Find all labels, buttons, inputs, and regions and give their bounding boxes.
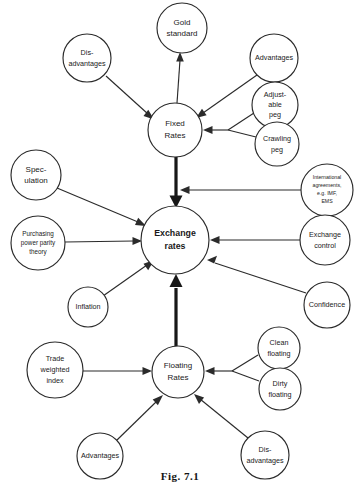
node-label-disadvantages-floating-line1: Dis-: [259, 445, 272, 454]
node-label-fixed-rates-line1: Fixed: [165, 119, 185, 128]
node-label-crawling-peg-line1: Crawling: [263, 134, 291, 143]
edge-advantages-to-floating: [117, 395, 163, 440]
node-label-trade-index-line3: index: [46, 376, 64, 385]
node-label-exchange-rates-line2: rates: [164, 241, 185, 251]
node-dirty-floating[interactable]: Dirty floating: [259, 368, 301, 410]
node-label-trade-index-line1: Trade: [46, 354, 65, 363]
node-label-speculation-line2: ulation: [24, 176, 48, 185]
edge-international-to-trunk: [180, 186, 301, 194]
node-international-agreements[interactable]: International agreements, e.g. IMF, EMS: [301, 164, 353, 216]
node-crawling-peg[interactable]: Crawling peg: [255, 122, 299, 166]
node-label-ppp-line2: power parity: [21, 239, 56, 247]
node-label-trade-index-line2: weighted: [40, 365, 70, 374]
edge-inflation-to-exchange: [103, 260, 154, 296]
node-exchange-control[interactable]: Exchange control: [300, 215, 350, 265]
node-trade-weighted-index[interactable]: Trade weighted index: [27, 342, 83, 398]
node-label-speculation-line1: Spec-: [26, 165, 47, 174]
node-label-floating-rates-line1: Floating: [164, 361, 192, 370]
node-inflation[interactable]: Inflation: [68, 287, 108, 327]
node-label-crawling-peg-line2: peg: [271, 145, 283, 154]
node-label-disadvantages-fixed-line2: advantages: [68, 59, 106, 68]
node-label-clean-floating-line2: floating: [267, 349, 290, 358]
node-layer: Gold standard Dis- advantages Advantages…: [11, 3, 353, 479]
node-label-dirty-floating-line1: Dirty: [273, 379, 288, 388]
node-label-disadvantages-floating-line2: advantages: [246, 456, 284, 465]
node-clean-floating[interactable]: Clean floating: [258, 327, 300, 369]
edge-disadvantages-to-fixed: [106, 76, 154, 120]
exchange-rates-diagram: Gold standard Dis- advantages Advantages…: [0, 0, 360, 494]
edge-fixed-to-exchange: [170, 157, 183, 208]
node-label-ppp-line1: Purchasing: [22, 230, 54, 238]
diagram-canvas: Gold standard Dis- advantages Advantages…: [0, 0, 360, 494]
edge-trade-index-to-floating: [83, 367, 152, 375]
node-advantages-fixed[interactable]: Advantages: [250, 34, 298, 82]
node-label-floating-rates-line2: Rates: [168, 373, 189, 382]
node-label-advantages-floating: Advantages: [81, 451, 119, 460]
node-label-exchange-rates-line1: Exchange: [154, 228, 196, 238]
node-purchasing-power-parity[interactable]: Purchasing power parity theory: [11, 216, 65, 270]
node-label-clean-floating-line1: Clean: [270, 338, 289, 347]
node-label-advantages-fixed: Advantages: [255, 53, 293, 62]
edge-floatings-to-floating: [205, 355, 259, 381]
node-gold-standard[interactable]: Gold standard: [157, 3, 207, 53]
figure-caption: Fig. 7.1: [0, 470, 360, 482]
node-speculation[interactable]: Spec- ulation: [11, 150, 61, 200]
node-adjustable-peg[interactable]: Adjust- able peg: [252, 82, 298, 128]
node-label-dirty-floating-line2: floating: [268, 390, 291, 399]
node-label-fixed-rates-line2: Rates: [165, 131, 186, 140]
node-label-international-line4: EMS: [321, 198, 333, 204]
node-label-exchange-control-line2: control: [314, 241, 336, 250]
node-label-international-line1: International: [313, 174, 342, 180]
node-floating-rates[interactable]: Floating Rates: [152, 346, 204, 398]
node-label-exchange-control-line1: Exchange: [309, 230, 341, 239]
node-label-international-line3: e.g. IMF,: [317, 190, 337, 196]
edge-ppp-to-exchange: [65, 237, 142, 245]
node-exchange-rates[interactable]: Exchange rates: [141, 206, 209, 274]
node-label-disadvantages-fixed-line1: Dis-: [81, 48, 94, 57]
node-label-adjustable-peg-line3: peg: [269, 110, 281, 119]
node-label-ppp-line3: theory: [29, 248, 47, 256]
edge-confidence-to-exchange: [207, 256, 306, 293]
edge-speculation-to-exchange: [57, 188, 146, 226]
edge-pegs-to-fixed: [203, 113, 256, 137]
node-confidence[interactable]: Confidence: [304, 282, 350, 328]
edge-disadvantages-to-floating: [194, 394, 248, 438]
node-label-adjustable-peg-line1: Adjust-: [264, 90, 287, 99]
edge-advantages-to-fixed: [196, 75, 257, 118]
node-label-adjustable-peg-line2: able: [268, 100, 282, 109]
edge-exchange-control-to-exchange: [210, 236, 300, 244]
node-label-gold-standard-line1: Gold: [174, 18, 191, 27]
edge-floating-to-exchange: [170, 274, 183, 346]
node-label-inflation: Inflation: [75, 302, 100, 311]
node-label-gold-standard-line2: standard: [166, 29, 197, 38]
node-fixed-rates[interactable]: Fixed Rates: [148, 103, 202, 157]
node-label-confidence: Confidence: [309, 300, 345, 309]
node-label-international-line2: agreements,: [313, 182, 342, 188]
edge-fixed-to-gold: [176, 52, 184, 103]
node-disadvantages-fixed[interactable]: Dis- advantages: [63, 34, 111, 82]
